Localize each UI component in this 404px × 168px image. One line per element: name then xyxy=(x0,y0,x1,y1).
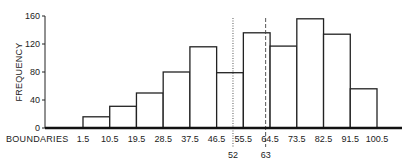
x-tick-label: 82.5 xyxy=(315,134,333,144)
histogram-bar xyxy=(136,93,163,128)
y-axis-title: FREQUENCY xyxy=(14,42,24,101)
x-tick-label: 55.5 xyxy=(235,134,253,144)
x-axis-title: BOUNDARIES xyxy=(6,134,69,144)
x-tick-label: 91.5 xyxy=(342,134,360,144)
histogram-bar xyxy=(83,117,110,128)
x-ticks-group: 1.510.519.528.537.546.555.564.573.582.59… xyxy=(77,134,389,144)
y-tick-label: 40 xyxy=(30,95,40,105)
histogram-bar xyxy=(297,19,324,128)
reference-line-label: 63 xyxy=(261,150,271,160)
x-tick-label: 100.5 xyxy=(366,134,389,144)
histogram-bar xyxy=(190,47,217,128)
x-tick-label: 46.5 xyxy=(208,134,226,144)
histogram-bar xyxy=(350,89,377,128)
x-tick-label: 19.5 xyxy=(128,134,146,144)
histogram-bar xyxy=(163,72,190,128)
y-ticks-group: 04080120160 xyxy=(25,11,45,133)
x-tick-label: 10.5 xyxy=(101,134,119,144)
x-tick-label: 28.5 xyxy=(154,134,172,144)
reference-line-label: 52 xyxy=(228,150,238,160)
y-tick-label: 0 xyxy=(35,123,40,133)
histogram-bar xyxy=(217,73,244,128)
y-tick-label: 160 xyxy=(25,11,40,21)
x-tick-label: 73.5 xyxy=(288,134,306,144)
bars-group xyxy=(83,19,377,128)
histogram-bar xyxy=(270,46,297,128)
y-tick-label: 120 xyxy=(25,39,40,49)
histogram-bar xyxy=(110,106,137,128)
x-tick-label: 1.5 xyxy=(77,134,90,144)
x-tick-label: 37.5 xyxy=(181,134,199,144)
y-tick-label: 80 xyxy=(30,67,40,77)
histogram-chart: 5263 04080120160 1.510.519.528.537.546.5… xyxy=(0,0,404,168)
histogram-bar xyxy=(324,34,351,128)
x-tick-label: 64.5 xyxy=(261,134,279,144)
